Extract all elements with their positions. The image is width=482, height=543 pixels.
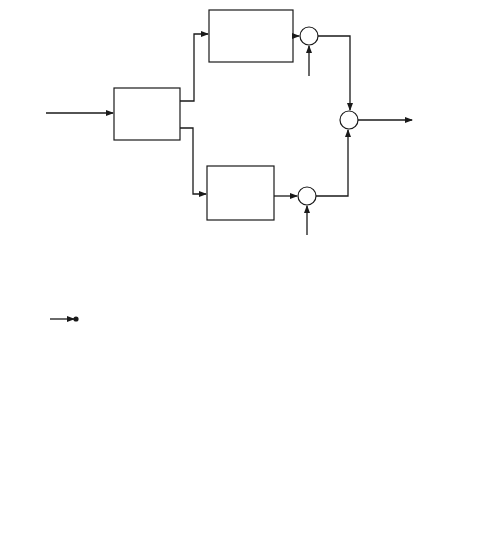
block-diagram-lines xyxy=(0,0,482,543)
